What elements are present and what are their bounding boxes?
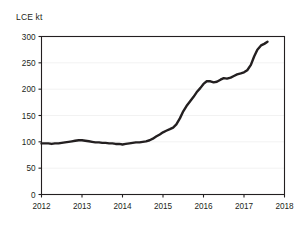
x-tick-label: 2013 [73, 202, 92, 211]
y-tick-label: 250 [22, 59, 36, 68]
x-tick-label: 2012 [32, 202, 51, 211]
x-tick-label: 2014 [113, 202, 132, 211]
y-tick-label: 100 [22, 138, 36, 147]
x-tick-label: 2016 [194, 202, 213, 211]
y-tick-label: 150 [22, 112, 36, 121]
x-tick-label: 2015 [154, 202, 173, 211]
y-tick-labels-group: 050100150200250300 [22, 33, 36, 200]
x-tick-label: 2018 [275, 202, 294, 211]
y-tick-label: 300 [22, 33, 36, 42]
x-tick-labels-group: 2012201320142015201620172018 [32, 202, 294, 211]
data-series-line [42, 42, 268, 145]
chart-figure: LCE kt 050100150200250300 20122013201420… [0, 0, 306, 229]
y-tick-label: 0 [31, 191, 36, 200]
line-chart-plot: 050100150200250300 201220132014201520162… [0, 0, 306, 229]
y-tick-label: 200 [22, 85, 36, 94]
y-tick-label: 50 [26, 164, 36, 173]
x-tick-label: 2017 [235, 202, 254, 211]
gridlines-group [42, 63, 285, 168]
